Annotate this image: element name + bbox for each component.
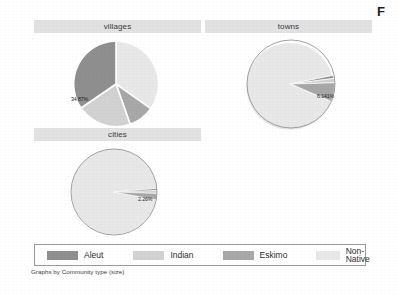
panel-cities: cities 2.26% (34, 128, 201, 240)
pie-cities-svg (62, 145, 166, 239)
legend-entry-aleut: Aleut (47, 245, 103, 265)
pie-towns-svg (239, 37, 343, 131)
legend-swatch-non-native (316, 251, 339, 260)
legend-entry-indian: Indian (133, 245, 193, 265)
legend-entry-non-native: Non-Native (316, 245, 377, 265)
legend-label-eskimo: Eskimo (260, 251, 288, 260)
figure-caption: Graphs by Community type (size) (31, 269, 124, 275)
pie-cities: 2.26% (62, 145, 166, 239)
panel-title-villages: villages (104, 23, 131, 31)
legend-swatch-eskimo (223, 251, 254, 260)
chart-legend: Aleut Indian Eskimo Non-Native (34, 244, 366, 266)
pie-slice-label-towns-eskimo: 6.141% (317, 94, 334, 99)
panel-title-band-cities: cities (34, 128, 201, 141)
panel-villages: villages 34.87% (34, 20, 201, 130)
pie-towns: 6.141% (239, 37, 343, 131)
legend-label-indian: Indian (170, 251, 193, 260)
panel-title-band-towns: towns (205, 20, 372, 33)
pie-villages: 34.87% (64, 38, 168, 130)
pie-slice-label-villages-aleut: 34.87% (71, 97, 88, 102)
legend-swatch-aleut (47, 251, 78, 260)
panel-title-band-villages: villages (34, 20, 201, 33)
legend-label-aleut: Aleut (84, 251, 103, 260)
pie-villages-svg (64, 38, 168, 130)
pie-slice-label-cities-eskimo: 2.26% (138, 197, 152, 202)
panel-towns: towns 6.141% (205, 20, 372, 130)
panel-title-towns: towns (278, 23, 299, 31)
legend-swatch-indian (133, 251, 164, 260)
legend-label-non-native: Non-Native (346, 247, 378, 264)
panel-title-cities: cities (108, 131, 127, 139)
legend-entry-eskimo: Eskimo (223, 245, 288, 265)
